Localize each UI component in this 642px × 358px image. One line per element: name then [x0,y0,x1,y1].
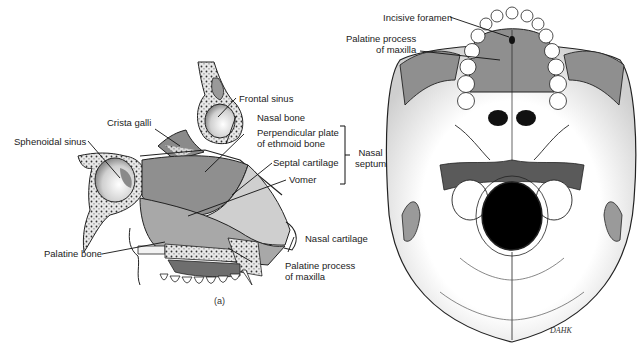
label-nasal-septum-line1: Nasal [355,147,386,158]
label-palatine-bone: Palatine bone [44,248,102,259]
label-palatine-process-inferior-line1: Palatine process [346,33,416,44]
label-perpendicular-plate-line1: Perpendicular plate [257,127,339,138]
label-nasal-septum-group: Nasal septum [355,147,386,169]
label-frontal-sinus: Frontal sinus [239,93,293,104]
label-palatine-process-inferior-line2: of maxilla [346,44,416,55]
label-incisive-foramen: Incisive foramen [383,12,452,23]
artist-signature: DAHK [549,326,572,335]
label-palatine-process-line1: Palatine process [285,260,355,271]
incisive-foramen-mark [509,36,515,44]
label-perpendicular-plate: Perpendicular plate of ethmoid bone [257,127,339,149]
frontal-sinus-cavity [205,104,235,138]
label-nasal-cartilage: Nasal cartilage [305,233,368,244]
skull-inferior-view: DAHK [386,7,635,342]
label-septal-cartilage: Septal cartilage [273,157,338,168]
label-perpendicular-plate-line2: of ethmoid bone [257,138,339,149]
nasal-septum-bracket [340,126,350,184]
figure-caption: (a) [214,296,225,306]
label-palatine-process-inferior: Palatine process of maxilla [346,33,416,55]
label-nasal-bone: Nasal bone [257,112,305,123]
label-palatine-process-sagittal: Palatine process of maxilla [285,260,355,282]
label-nasal-septum-line2: septum [355,158,386,169]
label-vomer: Vomer [289,174,316,185]
foramen-magnum [482,182,542,250]
label-sphenoidal-sinus: Sphenoidal sinus [14,136,86,147]
label-palatine-process-line2: of maxilla [285,271,355,282]
anatomy-illustration: DAHK [0,0,642,358]
label-crista-galli: Crista galli [107,117,151,128]
